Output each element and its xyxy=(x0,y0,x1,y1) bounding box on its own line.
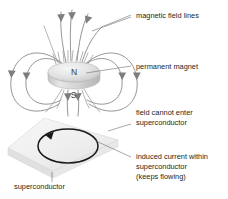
magnet-south-label: S xyxy=(71,90,77,100)
label-magnetic-field-lines: magnetic field lines xyxy=(136,11,199,20)
magnet-north-label: N xyxy=(71,67,77,77)
leader-field-cannot-enter xyxy=(108,124,131,131)
magnet-superconductor-diagram: N S magnetic field lines permanent xyxy=(0,0,228,199)
label-superconductor: superconductor xyxy=(14,182,65,191)
superconductor-slab xyxy=(8,118,118,178)
field-line-plume-5 xyxy=(44,26,58,63)
diagram-canvas: N S magnetic field lines permanent xyxy=(0,0,228,199)
label-induced-current-line3: (keeps flowing) xyxy=(136,172,186,181)
field-arrow-outer-left xyxy=(7,70,15,78)
field-arrow-outer-right xyxy=(133,73,141,81)
label-permanent-magnet: permanent magnet xyxy=(136,62,198,71)
field-arrow-plume-2 xyxy=(68,12,76,20)
field-line-south-4 xyxy=(82,90,89,108)
field-arrow-inner-left xyxy=(23,73,31,81)
field-line-south-3 xyxy=(57,90,64,108)
leader-field-lines-a xyxy=(104,15,131,26)
permanent-magnet: N S xyxy=(48,62,100,100)
field-arrow-plume-1 xyxy=(57,14,65,22)
field-arrow-inner-right xyxy=(118,73,126,81)
label-field-cannot-enter-line2: superconductor xyxy=(136,118,187,127)
leader-field-lines-b xyxy=(92,17,131,31)
label-induced-current-line2: superconductor xyxy=(136,162,187,171)
label-induced-current-line1: induced current within xyxy=(136,152,208,161)
label-field-cannot-enter-line1: field cannot enter xyxy=(136,108,193,117)
